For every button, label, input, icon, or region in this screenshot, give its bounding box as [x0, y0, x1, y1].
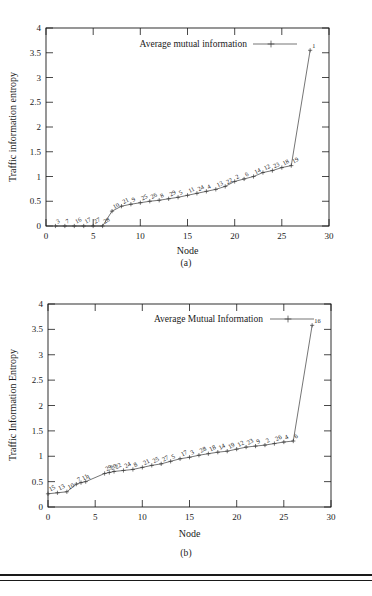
data-series-a	[53, 48, 312, 228]
data-point-label: 4	[206, 182, 212, 190]
y-tick-b-7: 3.5	[32, 324, 44, 334]
data-point-label: 24	[123, 460, 133, 470]
x-tick-b-1: 5	[93, 512, 98, 522]
data-point-label: 21	[121, 196, 130, 205]
x-tick-b-2: 10	[138, 512, 148, 522]
x-tick-b-3: 15	[185, 512, 195, 522]
y-tick-a-6: 3	[37, 73, 42, 83]
data-point-label: 25	[140, 192, 149, 201]
y-axis-title-b: Traffic Information Entropy	[7, 349, 18, 461]
data-point-label: 21	[142, 457, 151, 466]
x-axis-title-a: Node	[177, 245, 199, 256]
legend-marker-a	[268, 41, 275, 48]
data-point-label: 27	[93, 216, 102, 225]
data-point-label: 4	[283, 433, 290, 441]
data-point-label: 16	[314, 317, 320, 324]
data-point-label: 10	[66, 481, 75, 490]
data-point-label: 22	[225, 176, 234, 185]
data-point-label: 25	[151, 455, 160, 464]
series-line	[48, 325, 312, 494]
x-tick-a-0: 0	[44, 231, 49, 241]
x-tick-b-0: 0	[46, 512, 51, 522]
y-axis-title-a: Traffic information entropy	[7, 72, 18, 182]
data-point-marker	[214, 187, 218, 191]
data-point-label: 26	[274, 433, 283, 442]
data-point-label: 26	[149, 191, 158, 200]
data-point-label: 28	[102, 216, 111, 225]
y-tick-a-8: 4	[37, 23, 42, 33]
data-point-marker	[72, 224, 76, 228]
data-point-label: 11	[187, 185, 196, 194]
data-point-label: 9	[130, 195, 136, 203]
data-point-marker	[216, 450, 220, 454]
y-tick-b-1: 0.5	[32, 477, 44, 487]
y-tick-a-5: 2.5	[30, 97, 42, 107]
legend-a: Average mutual information	[140, 39, 297, 49]
data-point-label: 23	[245, 437, 254, 446]
x-tick-a-5: 25	[277, 231, 287, 241]
data-point-label: 16	[74, 216, 83, 225]
data-point-label: 23	[272, 160, 281, 169]
data-point-label: 24	[196, 183, 205, 192]
data-point-label: 5	[177, 188, 183, 196]
legend-label-b: Average Mutual Information	[154, 314, 263, 324]
legend-label-a: Average mutual information	[140, 39, 248, 49]
data-point-label: 18	[208, 443, 217, 452]
y-tick-b-5: 2.5	[32, 375, 44, 385]
x-tick-a-2: 10	[136, 231, 146, 241]
caption-a: (a)	[0, 258, 372, 268]
data-point-label: 13	[215, 179, 224, 188]
series-line	[55, 50, 310, 226]
chart-b-svg: 0 0.5 1 1.5 2 2.5 3 3.5 4	[0, 282, 372, 548]
y-tick-b-3: 1.5	[32, 426, 44, 436]
data-point-label: 2	[234, 172, 240, 180]
data-point-label: 29	[168, 188, 177, 197]
x-tick-a-6: 30	[325, 231, 335, 241]
point-labels-b: 1513107111292022248212527517328181419122…	[47, 317, 320, 492]
data-point-label: 17	[83, 216, 92, 225]
y-tick-b-0: 0	[39, 502, 44, 512]
y-tick-a-4: 2	[37, 122, 42, 132]
legend-marker-b	[285, 316, 292, 323]
y-tick-b-4: 2	[39, 401, 44, 411]
data-point-marker	[138, 201, 142, 205]
y-tick-a-0: 0	[37, 221, 42, 231]
chart-panel-b: 0 0.5 1 1.5 2 2.5 3 3.5 4	[0, 282, 372, 572]
chart-a-svg: 0 0.5 1 1.5 2 2.5 3 3.5 4	[0, 0, 372, 258]
data-point-label: 19	[227, 441, 236, 450]
x-tick-b-6: 30	[327, 512, 337, 522]
footer-rule-thick	[0, 574, 372, 576]
data-point-marker	[140, 465, 144, 469]
data-point-label: 2	[264, 436, 270, 444]
data-point-label: 8	[132, 460, 138, 468]
data-point-marker	[176, 195, 180, 199]
data-point-label: 3	[55, 217, 61, 225]
y-tick-a-3: 1.5	[30, 147, 42, 157]
data-point-label: 5	[170, 452, 176, 460]
y-tick-a-1: 0.5	[30, 196, 42, 206]
point-labels-a: 3716172728102192526829511244132226141223…	[55, 42, 316, 225]
footer-rule-thin	[0, 580, 372, 581]
x-axis-title-b: Node	[179, 528, 201, 539]
y-tick-a-2: 1	[37, 172, 42, 182]
legend-b: Average Mutual Information	[154, 314, 314, 324]
caption-b: (b)	[0, 548, 372, 558]
data-point-label: 3	[189, 448, 195, 456]
data-point-label: 13	[57, 482, 66, 491]
data-point-label: 8	[159, 191, 165, 199]
x-tick-a-1: 5	[91, 231, 96, 241]
data-series-b	[46, 323, 314, 496]
data-point-label: 7	[64, 217, 70, 225]
y-tick-b-2: 1	[39, 451, 44, 461]
y-axis-a: 0 0.5 1 1.5 2 2.5 3 3.5 4	[30, 23, 329, 231]
x-tick-a-4: 20	[230, 231, 240, 241]
x-axis-b: 0 5 10 15 20 25 30	[46, 304, 336, 522]
chart-panel-a: 0 0.5 1 1.5 2 2.5 3 3.5 4	[0, 0, 372, 282]
x-tick-b-4: 20	[232, 512, 242, 522]
data-point-label: 12	[262, 162, 271, 171]
x-tick-a-3: 15	[183, 231, 193, 241]
y-tick-b-6: 3	[39, 350, 44, 360]
y-tick-a-7: 3.5	[30, 48, 42, 58]
x-axis-a: 0 5 10 15 20 25 30	[44, 28, 334, 241]
data-point-marker	[282, 440, 286, 444]
